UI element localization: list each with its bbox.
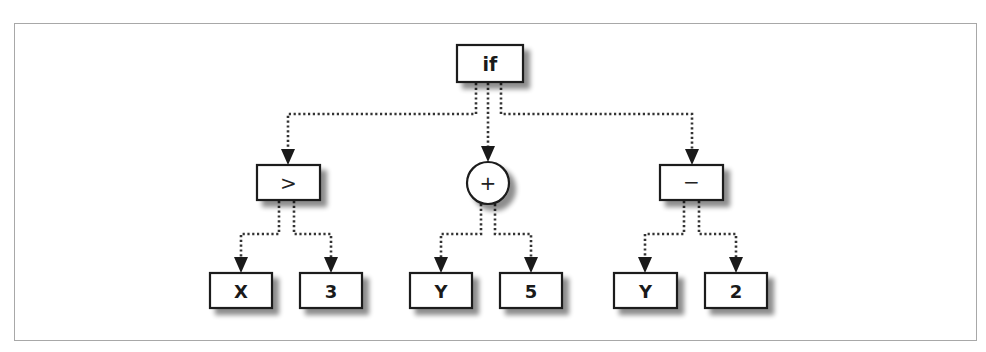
node-greater-than: >	[257, 165, 320, 200]
edges-level-2	[234, 201, 743, 273]
edge-minus-2	[699, 201, 736, 258]
node-label-x: X	[234, 281, 248, 302]
node-label-minus: −	[683, 170, 700, 194]
node-label-y1: Y	[433, 281, 448, 302]
node-label-plus: +	[480, 171, 497, 195]
edge-gt-3	[294, 201, 331, 258]
node-label-5: 5	[525, 281, 538, 302]
arrowhead-icon	[685, 149, 699, 165]
node-if: if	[457, 45, 523, 82]
arrowhead-icon	[234, 257, 248, 273]
node-label-y2: Y	[638, 281, 653, 302]
node-label-3: 3	[325, 281, 338, 302]
node-label-2: 2	[730, 281, 743, 302]
arrowhead-icon	[481, 146, 495, 162]
node-2: 2	[705, 273, 767, 308]
edge-plus-5	[495, 204, 531, 258]
edge-gt-x	[241, 201, 279, 258]
arrowhead-icon	[324, 257, 338, 273]
node-label-gt: >	[280, 171, 297, 195]
edge-plus-y	[441, 204, 481, 258]
node-3: 3	[300, 273, 362, 308]
node-5: 5	[500, 273, 562, 308]
arrowhead-icon	[434, 257, 448, 273]
edge-minus-y	[645, 201, 684, 258]
node-y-right: Y	[614, 273, 677, 308]
node-plus: +	[467, 162, 509, 204]
edge-if-minus	[501, 83, 692, 150]
arrowhead-icon	[729, 257, 743, 273]
edge-if-gt	[288, 83, 476, 150]
arrowhead-icon	[638, 257, 652, 273]
node-y-left: Y	[410, 273, 472, 308]
arrowhead-icon	[281, 149, 295, 165]
node-x: X	[210, 273, 272, 308]
arrowhead-icon	[524, 257, 538, 273]
expression-tree-diagram: if > + − X 3 Y 5 Y 2	[0, 0, 986, 352]
node-minus: −	[660, 165, 723, 200]
edges-level-1	[281, 83, 699, 165]
node-label-if: if	[483, 53, 499, 75]
